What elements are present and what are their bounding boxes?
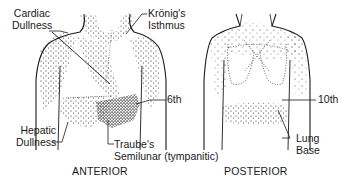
kronig-line1: Krönig's [148, 8, 186, 20]
right-scapula-region [288, 32, 308, 96]
hepatic-dullness-label: Hepatic Dullness [16, 125, 56, 148]
left-scapula-region [210, 30, 232, 96]
posterior-torso [204, 14, 310, 150]
hepatic-line1: Hepatic [16, 125, 56, 137]
lung-line1: Lung [296, 133, 320, 145]
traube-line1: Traube's [114, 139, 218, 151]
cardiac-line1: Cardiac [12, 8, 50, 20]
sixth-rib-label: 6th [167, 94, 182, 106]
neck-right [270, 14, 272, 26]
hepatic-line2: Dullness [16, 137, 56, 149]
tenth-rib-label: 10th [318, 94, 338, 106]
cardiac-line2: Dullness [12, 20, 50, 32]
lung-base-label: Lung Base [296, 133, 320, 156]
traube-line2: Semilunar (tympanitic) [114, 151, 218, 163]
percussion-diagram: Cardiac Dullness Krönig's Isthmus 6th He… [0, 0, 344, 181]
anterior-caption: ANTERIOR [72, 165, 128, 177]
posterior-caption: POSTERIOR [224, 165, 288, 177]
lung-base-region [222, 102, 288, 125]
lung-line2: Base [296, 145, 320, 157]
cardiac-dullness-label: Cardiac Dullness [12, 8, 50, 31]
cardiac-band [76, 36, 120, 100]
kronig-isthmus-label: Krönig's Isthmus [148, 8, 186, 31]
traube-label: Traube's Semilunar (tympanitic) [114, 139, 218, 162]
kronig-line2: Isthmus [148, 20, 186, 32]
